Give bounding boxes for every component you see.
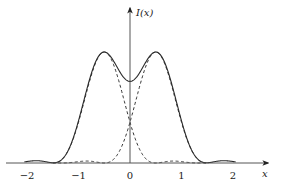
x-tick-label: 1 [178, 170, 184, 181]
x-tick-label: 2 [230, 170, 236, 181]
x-tick-label: −1 [71, 170, 86, 181]
x-axis-label: x [262, 168, 268, 179]
y-axis-label: I(x) [135, 7, 153, 18]
x-tick-label: −2 [20, 170, 35, 181]
diffraction-chart: −2−1012 x I(x) [0, 0, 283, 187]
x-tick-label: 0 [127, 170, 133, 181]
x-tick-labels: −2−1012 [20, 170, 237, 181]
